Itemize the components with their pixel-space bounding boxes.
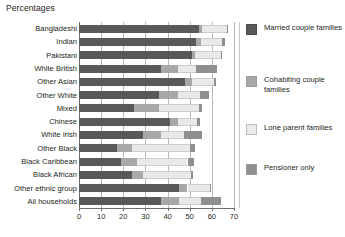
y-axis-label-white-british: White British bbox=[1, 64, 77, 73]
chart-title: Percentages bbox=[6, 3, 55, 13]
bar-segment bbox=[143, 171, 191, 179]
x-tick-mark-70 bbox=[234, 208, 235, 211]
legend-swatch-lone bbox=[246, 124, 257, 135]
y-axis-label-white-irish: White Irish bbox=[1, 130, 77, 139]
x-tick-label-70: 70 bbox=[230, 212, 238, 221]
bar-segment bbox=[79, 25, 199, 33]
bar-segment bbox=[79, 171, 132, 179]
bar-segment bbox=[79, 197, 161, 205]
bar-segment bbox=[201, 38, 222, 46]
x-tick-mark-0 bbox=[79, 208, 80, 211]
bar-segment bbox=[79, 65, 161, 73]
bar-segment bbox=[200, 91, 209, 99]
y-axis-label-other-asian: Other Asian bbox=[1, 77, 77, 86]
bar-segment bbox=[79, 91, 159, 99]
x-tick-label-0: 0 bbox=[77, 212, 81, 221]
y-axis-label-black-african: Black African bbox=[1, 170, 77, 179]
y-axis-category-labels: BangladeshiIndianPakistaniWhite BritishO… bbox=[0, 22, 77, 208]
bar-segment bbox=[79, 118, 170, 126]
x-tick-mark-10 bbox=[101, 208, 102, 211]
bar-segment bbox=[202, 25, 227, 33]
y-axis-label-pakistani: Pakistani bbox=[1, 51, 77, 60]
bar-row bbox=[79, 118, 234, 126]
bar-segment bbox=[79, 158, 121, 166]
bar-segment bbox=[195, 51, 220, 59]
bar-row bbox=[79, 144, 234, 152]
bar-segment bbox=[210, 184, 211, 192]
bar-segment bbox=[132, 171, 143, 179]
bar-row bbox=[79, 51, 234, 59]
bar-segment bbox=[79, 131, 143, 139]
bar-row bbox=[79, 197, 234, 205]
bar-segment bbox=[79, 78, 185, 86]
bar-segment bbox=[191, 171, 193, 179]
x-tick-label-50: 50 bbox=[186, 212, 194, 221]
bar-row bbox=[79, 65, 234, 73]
bar-segment bbox=[137, 158, 188, 166]
bar-segment bbox=[132, 144, 190, 152]
bar-segment bbox=[170, 118, 178, 126]
bar-row bbox=[79, 171, 234, 179]
bar-segment bbox=[143, 131, 161, 139]
chart-container: Percentages BangladeshiIndianPakistaniWh… bbox=[0, 0, 345, 237]
y-axis-label-black-caribbean: Black Caribbean bbox=[1, 157, 77, 166]
bar-row bbox=[79, 78, 234, 86]
bar-segment bbox=[79, 144, 117, 152]
bar-segment bbox=[121, 158, 137, 166]
bar-segment bbox=[117, 144, 133, 152]
y-axis-label-other-black: Other Black bbox=[1, 144, 77, 153]
y-axis-label-all-households: All households bbox=[1, 197, 77, 206]
bar-segment bbox=[188, 184, 210, 192]
bar-row bbox=[79, 184, 234, 192]
bar-segment bbox=[221, 51, 222, 59]
y-axis-label-bangladeshi: Bangladeshi bbox=[1, 24, 77, 33]
bar-segment bbox=[178, 118, 198, 126]
bar-segment bbox=[185, 78, 192, 86]
bar-segment bbox=[79, 38, 196, 46]
x-tick-label-40: 40 bbox=[163, 212, 171, 221]
bar-row bbox=[79, 104, 234, 112]
x-tick-label-20: 20 bbox=[119, 212, 127, 221]
legend-swatch-married bbox=[246, 24, 257, 35]
bar-segment bbox=[161, 65, 178, 73]
bar-segment bbox=[201, 197, 221, 205]
legend-label: Pensioner only bbox=[264, 163, 344, 173]
legend-label: Lone parent families bbox=[264, 123, 344, 133]
bar-row bbox=[79, 25, 234, 33]
bar-segment bbox=[179, 197, 201, 205]
bar-segment bbox=[188, 158, 195, 166]
bar-segment bbox=[134, 104, 158, 112]
bars-layer bbox=[79, 22, 234, 208]
y-axis-label-other-ethnic-group: Other ethnic group bbox=[1, 184, 77, 193]
x-tick-label-10: 10 bbox=[97, 212, 105, 221]
y-axis-label-mixed: Mixed bbox=[1, 104, 77, 113]
bar-segment bbox=[196, 65, 217, 73]
x-tick-mark-50 bbox=[190, 208, 191, 211]
bar-segment bbox=[79, 104, 134, 112]
bar-segment bbox=[79, 51, 192, 59]
bar-segment bbox=[199, 104, 202, 112]
y-axis-label-chinese: Chinese bbox=[1, 117, 77, 126]
bar-segment bbox=[178, 91, 200, 99]
bar-segment bbox=[222, 38, 225, 46]
legend-divider bbox=[239, 22, 240, 208]
x-tick-mark-60 bbox=[212, 208, 213, 211]
y-axis-label-other-white: Other White bbox=[1, 91, 77, 100]
bar-segment bbox=[159, 91, 178, 99]
bar-segment bbox=[161, 197, 179, 205]
bar-row bbox=[79, 91, 234, 99]
legend-swatch-cohab bbox=[246, 76, 257, 87]
bar-segment bbox=[184, 131, 202, 139]
gridline-70 bbox=[234, 22, 235, 208]
bar-segment bbox=[79, 184, 179, 192]
x-tick-mark-30 bbox=[145, 208, 146, 211]
bar-segment bbox=[227, 25, 228, 33]
legend-swatch-pension bbox=[246, 164, 257, 175]
bar-segment bbox=[179, 184, 188, 192]
bar-row bbox=[79, 158, 234, 166]
x-tick-mark-40 bbox=[168, 208, 169, 211]
bar-row bbox=[79, 38, 234, 46]
plot-area bbox=[79, 22, 234, 208]
legend-label: Cohabiting couple families bbox=[264, 75, 344, 94]
bar-segment bbox=[161, 131, 184, 139]
